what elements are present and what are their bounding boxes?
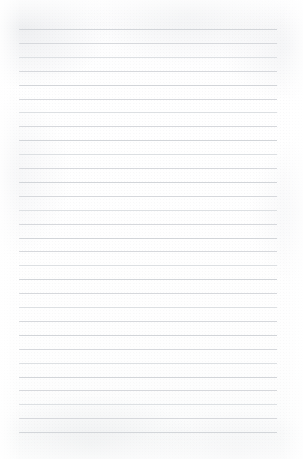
rule-line	[19, 140, 277, 141]
rule-line	[19, 196, 277, 197]
rule-line	[19, 85, 277, 86]
rule-line-group	[0, 0, 303, 459]
rule-line	[19, 210, 277, 211]
rule-line	[19, 418, 277, 419]
rule-line	[19, 29, 277, 30]
rule-line	[19, 321, 277, 322]
rule-line	[19, 238, 277, 239]
rule-line	[19, 154, 277, 155]
rule-line	[19, 349, 277, 350]
rule-line	[19, 126, 277, 127]
rule-line	[19, 168, 277, 169]
rule-line	[19, 377, 277, 378]
rule-line	[19, 182, 277, 183]
rule-line	[19, 57, 277, 58]
rule-line	[19, 99, 277, 100]
rule-line	[19, 112, 277, 113]
rule-line	[19, 363, 277, 364]
rule-line	[19, 404, 277, 405]
rule-line	[19, 335, 277, 336]
rule-line	[19, 279, 277, 280]
rule-line	[19, 224, 277, 225]
rule-line	[19, 293, 277, 294]
rule-line	[19, 307, 277, 308]
rule-line	[19, 251, 277, 252]
rule-line	[19, 390, 277, 391]
rule-line	[19, 43, 277, 44]
rule-line	[19, 432, 277, 433]
rule-line	[19, 265, 277, 266]
scanned-paper-page	[0, 0, 303, 459]
rule-line	[19, 71, 277, 72]
